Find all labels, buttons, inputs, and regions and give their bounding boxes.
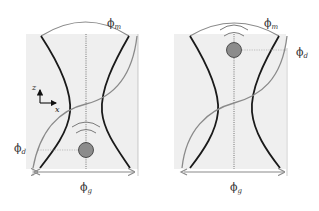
- z-axis-label: z: [31, 83, 37, 92]
- right-panel: ϕm ϕd ϕg: [174, 17, 309, 195]
- right-phi-m-label: ϕm: [264, 17, 279, 31]
- left-phi-d-label: ϕd: [14, 142, 27, 156]
- diagram-canvas: z x ϕm ϕd ϕg ϕm: [0, 0, 319, 211]
- left-particle: [79, 143, 94, 158]
- right-phi-d-label: ϕd: [296, 46, 309, 60]
- left-phi-g-label: ϕg: [80, 181, 93, 195]
- right-particle: [227, 43, 242, 58]
- right-wave-arc-outer: [220, 25, 248, 30]
- left-phi-m-label: ϕm: [107, 17, 122, 31]
- left-panel: z x ϕm ϕd ϕg: [14, 17, 138, 195]
- right-phi-g-label: ϕg: [230, 181, 243, 195]
- x-axis-label: x: [55, 105, 60, 114]
